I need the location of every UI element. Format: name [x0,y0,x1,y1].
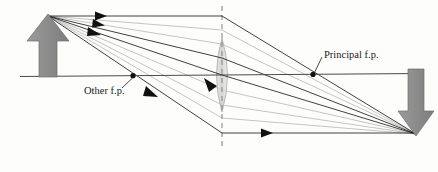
label-other-focal-point: Other f.p. [84,86,125,97]
ray-diagram-figure: Principal f.p. Other f.p. [0,0,438,172]
label-principal-focal-point: Principal f.p. [324,50,379,61]
focal-point-other-dot [130,73,135,78]
diagram-canvas [0,0,438,172]
